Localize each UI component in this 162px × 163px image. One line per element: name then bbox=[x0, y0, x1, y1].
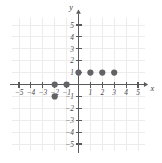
y-tick-label: 5 bbox=[70, 21, 74, 30]
y-axis-label: y bbox=[68, 3, 73, 12]
x-axis-arrow-icon bbox=[144, 82, 148, 87]
data-point bbox=[99, 70, 105, 76]
x-tick-label: 4 bbox=[124, 88, 128, 97]
data-point bbox=[75, 70, 81, 76]
x-tick-label: −3 bbox=[38, 88, 47, 97]
scatter-plot-svg: −5−4−3−2−112345−5−4−3−2−112345 xy bbox=[0, 0, 162, 163]
y-tick-label: 1 bbox=[70, 68, 74, 77]
y-tick-label: 3 bbox=[69, 45, 74, 54]
x-tick-label: 1 bbox=[89, 88, 93, 97]
x-axis-label: x bbox=[149, 84, 154, 93]
data-point bbox=[111, 70, 117, 76]
y-tick-label: −4 bbox=[65, 128, 74, 137]
x-tick-label: 5 bbox=[136, 88, 140, 97]
data-point bbox=[87, 70, 93, 76]
y-tick-label: −3 bbox=[65, 116, 74, 125]
y-tick-label: −2 bbox=[65, 104, 74, 113]
data-point bbox=[52, 81, 58, 87]
data-point bbox=[64, 81, 70, 87]
axis-name-labels: xy bbox=[68, 3, 154, 93]
y-axis-arrow-icon bbox=[76, 9, 81, 13]
y-tick-label: −1 bbox=[65, 92, 74, 101]
coordinate-plane-figure: −5−4−3−2−112345−5−4−3−2−112345 xy bbox=[0, 0, 162, 163]
y-tick-label: 4 bbox=[70, 33, 74, 42]
y-tick-label: −5 bbox=[65, 140, 74, 149]
x-tick-label: −4 bbox=[27, 88, 36, 97]
y-tick-label: 2 bbox=[70, 56, 74, 65]
x-tick-label: 2 bbox=[100, 88, 104, 97]
data-point bbox=[52, 93, 58, 99]
x-tick-label: −5 bbox=[15, 88, 24, 97]
x-tick-label: 3 bbox=[111, 88, 116, 97]
